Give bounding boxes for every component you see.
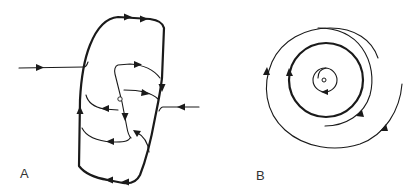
panel-a-label: A	[20, 166, 29, 181]
arrow-icon	[121, 179, 129, 186]
arrow-icon	[177, 104, 185, 111]
panel-a-incoming-left	[19, 62, 88, 68]
arrow-icon	[122, 113, 129, 121]
arrow-icon	[321, 89, 328, 95]
phase-portrait-figure	[0, 0, 419, 193]
panel-b-label: B	[256, 168, 265, 183]
arrow-icon	[105, 177, 113, 184]
arrow-icon	[356, 110, 364, 117]
arrow-icon	[106, 138, 114, 145]
arrow-icon	[141, 89, 150, 96]
arrow-icon	[133, 130, 141, 137]
panel-a-inner-bottom	[82, 128, 130, 142]
arrow-icon	[101, 105, 109, 112]
arrow-icon	[124, 14, 132, 21]
arrow-icon	[134, 61, 142, 68]
arrow-icon	[77, 106, 84, 114]
panel-a-inner-left-upper	[86, 95, 118, 110]
panel-b-diagram	[263, 28, 402, 148]
panel-a-fixed-point	[118, 97, 122, 101]
arrow-icon	[140, 16, 148, 23]
arrow-icon	[286, 68, 293, 76]
panel-a-inner-upper-right	[124, 90, 158, 99]
panel-b-fixed-point	[322, 78, 326, 82]
panel-a-diagram	[19, 14, 199, 186]
arrow-icon	[36, 64, 44, 71]
